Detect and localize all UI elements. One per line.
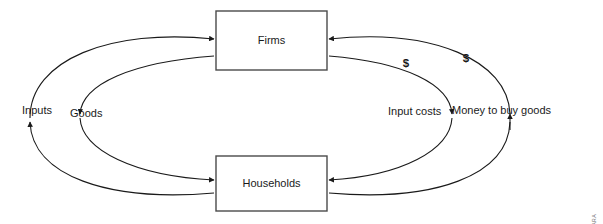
flow-arrow-inputs-to-firms: [30, 37, 214, 118]
flow-label-input-costs: Input costs: [388, 105, 442, 117]
node-households: Households: [216, 156, 327, 211]
flow-arrow-goods-to-households: [80, 118, 214, 180]
diagram-canvas: Firms Households Inputs Goods Input cost…: [0, 0, 603, 224]
flow-label-inputs: Inputs: [22, 104, 52, 116]
circular-flow-diagram: Firms Households Inputs Goods Input cost…: [0, 0, 603, 224]
flow-label-money-to-buy-goods: Money to buy goods: [452, 104, 552, 116]
households-label: Households: [242, 177, 301, 189]
flow-inner-right-input-costs: [329, 56, 452, 180]
node-firms: Firms: [216, 11, 327, 70]
flow-arrow-inputs-descend: [30, 122, 214, 195]
flow-outer-left-inputs: [30, 37, 214, 195]
flow-arrow-input-costs-to-households: [329, 118, 452, 180]
money-symbol-inner: $: [403, 57, 410, 69]
source-credit: SOURCE: JOHN GOWDY AND SABINE O'HARA: [591, 214, 597, 224]
flow-arrow-goods-descend: [80, 56, 214, 114]
firms-label: Firms: [258, 34, 286, 46]
money-symbol-outer: $: [463, 52, 470, 64]
flow-label-goods: Goods: [70, 107, 103, 119]
flow-arrow-money-to-firms: [329, 37, 510, 114]
